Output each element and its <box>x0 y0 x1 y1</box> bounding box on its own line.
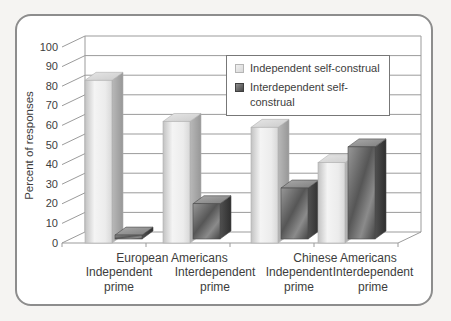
legend-swatch-interdependent <box>235 83 244 92</box>
figure: Percent of responses 0102030405060708090… <box>0 0 451 321</box>
y-tick-label: 50 <box>28 139 58 152</box>
y-tick-label: 70 <box>28 99 58 112</box>
y-tick-label: 20 <box>28 197 58 210</box>
y-tick-label: 40 <box>28 158 58 171</box>
x-label-european-independent-prime: Independent prime <box>71 265 167 295</box>
y-tick-label: 10 <box>28 217 58 230</box>
bar-interdependent-construal-cat3 <box>348 139 386 239</box>
bar-interdependent-construal-cat2 <box>281 180 319 239</box>
legend-swatch-independent <box>235 64 244 73</box>
group-label-chinese-americans: Chinese Americans <box>275 251 415 265</box>
bar-independent-construal-cat0 <box>85 72 123 243</box>
legend-label-independent: Independent self-construal <box>250 61 380 75</box>
x-label-european-interdependent-prime: Interdependent prime <box>167 265 263 295</box>
legend-box: Independent self-construal Interdependen… <box>226 55 390 116</box>
bar-interdependent-construal-cat1 <box>193 196 231 239</box>
group-label-european-americans: European Americans <box>102 251 242 265</box>
y-tick-label: 30 <box>28 178 58 191</box>
y-tick-label: 100 <box>28 41 58 54</box>
legend-entry-interdependent: Interdependent self-construal <box>235 80 383 109</box>
y-tick-label: 60 <box>28 119 58 132</box>
y-tick-label: 80 <box>28 80 58 93</box>
legend-label-interdependent: Interdependent self-construal <box>250 80 383 109</box>
x-label-chinese-interdependent-prime: Interdependent prime <box>325 265 421 295</box>
legend-entry-independent: Independent self-construal <box>235 61 383 75</box>
y-tick-label: 90 <box>28 60 58 73</box>
y-tick-label: 0 <box>28 237 58 250</box>
